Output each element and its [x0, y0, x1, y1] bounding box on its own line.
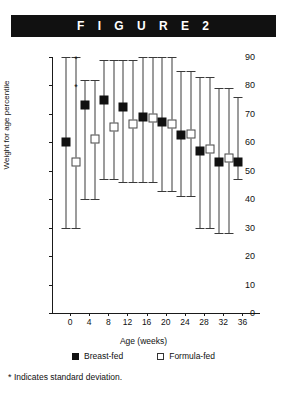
y-tick-mark	[49, 256, 52, 257]
error-bar-cap	[225, 88, 234, 89]
y-tick-mark	[49, 57, 52, 58]
y-tick-mark	[49, 313, 52, 314]
error-bar-cap	[234, 97, 243, 98]
error-bar-cap	[100, 179, 109, 180]
error-bar-cap	[234, 179, 243, 180]
data-point-formula-fed	[129, 119, 138, 128]
error-bar	[123, 60, 124, 182]
error-bar	[114, 60, 115, 179]
figure-root: F I G U R E 2 0102030405060708090 048121…	[0, 0, 287, 405]
filled-square-icon	[72, 353, 79, 360]
figure-banner: F I G U R E 2	[11, 15, 276, 37]
y-tick-mark	[49, 142, 52, 143]
error-bar-cap	[138, 57, 147, 58]
data-point-breast-fed	[138, 112, 147, 121]
error-bar	[85, 80, 86, 199]
data-point-formula-fed	[72, 158, 81, 167]
legend-label-formula-fed: Formula-fed	[169, 351, 215, 361]
y-tick-label: 70	[233, 109, 255, 119]
plot-area: 0102030405060708090 04812162024283236 **	[52, 57, 260, 313]
y-tick-label: 60	[233, 137, 255, 147]
error-bar-cap	[157, 57, 166, 58]
x-tick-label: 20	[161, 317, 170, 327]
error-bar-cap	[196, 77, 205, 78]
x-tick-label: 36	[238, 317, 247, 327]
error-bar-cap	[186, 71, 195, 72]
error-bar-cap	[215, 88, 224, 89]
data-point-breast-fed	[100, 95, 109, 104]
x-tick-mark	[223, 313, 224, 316]
footnote-text: Indicates standard deviation.	[14, 372, 122, 382]
footnote-marker: *	[8, 372, 12, 382]
y-tick-mark	[49, 228, 52, 229]
open-square-icon	[157, 353, 164, 360]
x-tick-label: 0	[68, 317, 73, 327]
error-bar-cap	[176, 71, 185, 72]
x-axis	[52, 313, 260, 314]
data-point-breast-fed	[62, 138, 71, 147]
legend-label-breast-fed: Breast-fed	[84, 351, 123, 361]
error-bar-cap	[62, 57, 71, 58]
error-bar-cap	[119, 182, 128, 183]
error-bar-cap	[167, 57, 176, 58]
data-point-formula-fed	[91, 135, 100, 144]
error-bar-cap	[148, 57, 157, 58]
legend-item-formula-fed: Formula-fed	[157, 351, 215, 361]
error-bar-cap	[91, 80, 100, 81]
error-bar-cap	[119, 60, 128, 61]
y-tick-label: 50	[233, 166, 255, 176]
error-bar-cap	[138, 182, 147, 183]
standard-deviation-asterisk: *	[74, 83, 78, 92]
x-tick-label: 24	[180, 317, 189, 327]
x-tick-label: 32	[219, 317, 228, 327]
error-bar-cap	[72, 228, 81, 229]
data-point-breast-fed	[157, 118, 166, 127]
error-bar-cap	[215, 233, 224, 234]
y-tick-mark	[49, 171, 52, 172]
data-point-formula-fed	[167, 119, 176, 128]
y-tick-mark	[49, 85, 52, 86]
error-bar-cap	[196, 228, 205, 229]
x-tick-label: 8	[106, 317, 111, 327]
data-point-formula-fed	[186, 129, 195, 138]
y-tick-label: 10	[233, 280, 255, 290]
error-bar-cap	[148, 182, 157, 183]
data-point-formula-fed	[148, 114, 157, 123]
y-tick-label: 30	[233, 223, 255, 233]
x-tick-mark	[242, 313, 243, 316]
y-tick-mark	[49, 199, 52, 200]
standard-deviation-asterisk: *	[74, 55, 78, 64]
y-tick-mark	[49, 285, 52, 286]
data-point-formula-fed	[225, 153, 234, 162]
error-bar-cap	[206, 77, 215, 78]
x-tick-label: 4	[87, 317, 92, 327]
y-tick-label: 20	[233, 251, 255, 261]
error-bar	[238, 97, 239, 179]
x-axis-label: Age (weeks)	[0, 336, 287, 346]
data-point-breast-fed	[234, 158, 243, 167]
x-tick-mark	[127, 313, 128, 316]
error-bar-cap	[100, 60, 109, 61]
data-point-formula-fed	[206, 145, 215, 154]
error-bar-cap	[129, 182, 138, 183]
data-point-breast-fed	[119, 102, 128, 111]
x-tick-label: 12	[123, 317, 132, 327]
footnote: * Indicates standard deviation.	[8, 372, 122, 382]
chart-legend: Breast-fed Formula-fed	[0, 351, 287, 361]
error-bar-cap	[225, 233, 234, 234]
error-bar-cap	[167, 191, 176, 192]
x-tick-label: 28	[199, 317, 208, 327]
error-bar-cap	[110, 60, 119, 61]
error-bar-cap	[91, 199, 100, 200]
error-bar-cap	[157, 191, 166, 192]
y-tick-label: 80	[233, 80, 255, 90]
data-point-breast-fed	[215, 158, 224, 167]
x-tick-mark	[70, 313, 71, 316]
y-axis-label: Weight for age percentile	[2, 81, 11, 170]
y-tick-mark	[49, 114, 52, 115]
data-point-formula-fed	[110, 122, 119, 131]
y-tick-label: 40	[233, 194, 255, 204]
error-bar-cap	[206, 228, 215, 229]
data-point-breast-fed	[176, 131, 185, 140]
x-tick-mark	[108, 313, 109, 316]
